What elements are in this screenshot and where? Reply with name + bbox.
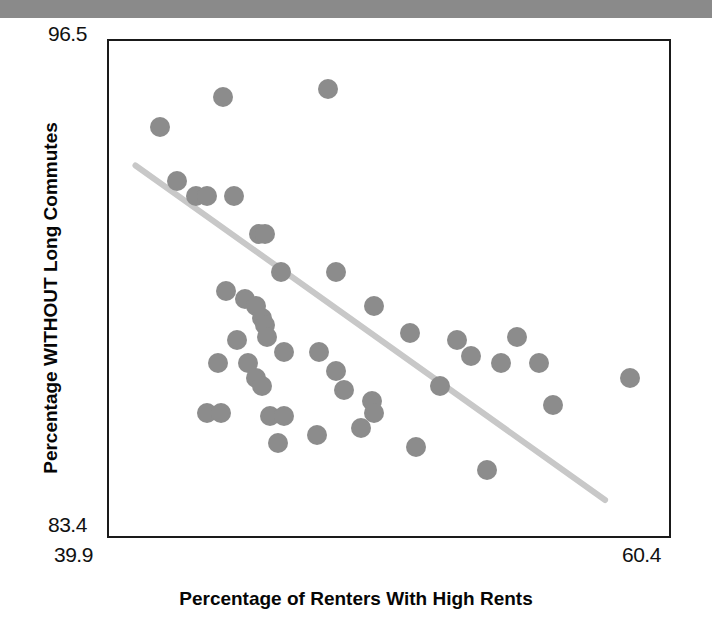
x-axis-title: Percentage of Renters With High Rents (0, 588, 712, 610)
data-point (477, 460, 497, 480)
data-point (364, 296, 384, 316)
data-point (351, 418, 371, 438)
plot-area (108, 40, 671, 538)
data-point (400, 323, 420, 343)
trend-line-layer (108, 40, 671, 538)
data-point (318, 79, 338, 99)
data-point (307, 425, 327, 445)
trend-line (135, 165, 605, 500)
data-point (216, 281, 236, 301)
x-axis-max-tick-label: 60.4 (622, 543, 661, 567)
data-point (406, 437, 426, 457)
data-point (224, 186, 244, 206)
data-point (227, 330, 247, 350)
data-point (309, 342, 329, 362)
data-point (208, 353, 228, 373)
data-point (326, 262, 346, 282)
data-point (167, 171, 187, 191)
data-point (461, 346, 481, 366)
data-point (197, 186, 217, 206)
data-point (213, 87, 233, 107)
y-axis-title: Percentage WITHOUT Long Commutes (40, 122, 61, 474)
data-point (491, 353, 511, 373)
data-point (257, 327, 277, 347)
data-point (255, 224, 275, 244)
data-point (334, 380, 354, 400)
data-point (211, 403, 231, 423)
data-point (326, 361, 346, 381)
data-point (507, 327, 527, 347)
data-point (268, 433, 288, 453)
data-point (543, 395, 563, 415)
data-point (430, 376, 450, 396)
data-point (274, 342, 294, 362)
data-point (271, 262, 291, 282)
data-point (252, 376, 272, 396)
y-axis-title-wrapper: Percentage WITHOUT Long Commutes (40, 18, 70, 578)
data-point (274, 406, 294, 426)
scatter-plot-figure: 96.5 83.4 39.9 60.4 Percentage of Renter… (0, 0, 712, 631)
data-point (620, 368, 640, 388)
data-point (529, 353, 549, 373)
data-point (150, 117, 170, 137)
